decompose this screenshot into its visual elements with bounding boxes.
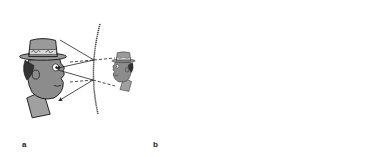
panel-a-label: a [22, 140, 26, 149]
rays-a [58, 40, 115, 100]
panel-b-label: b [153, 140, 158, 149]
mirror-diagram [0, 0, 368, 157]
panel-a-virtual-image [112, 52, 135, 92]
panel-a-observer [20, 39, 67, 118]
convex-mirror [93, 24, 100, 114]
